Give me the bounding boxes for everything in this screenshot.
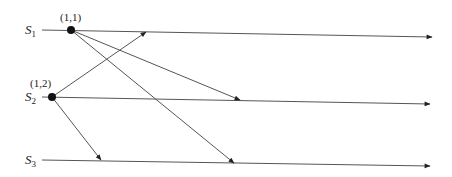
- message-arrows: [52, 30, 240, 163]
- timeline-s3-arrow: [42, 160, 430, 166]
- event-label: (1,2): [30, 77, 51, 90]
- process-label-s3: S3: [25, 152, 37, 169]
- process-label-s1: S1: [25, 22, 36, 39]
- process-label-s2: S2: [25, 89, 36, 106]
- message-arrow: [71, 30, 240, 100]
- space-time-diagram: S1S2S3 (1,1)(1,2): [0, 0, 452, 177]
- event-dot: [67, 26, 75, 34]
- events: (1,1)(1,2): [30, 11, 81, 101]
- event-dot: [48, 93, 56, 101]
- timeline-s1-arrow: [42, 30, 432, 37]
- message-arrow: [52, 97, 101, 160]
- event-label: (1,1): [60, 11, 81, 24]
- message-arrow: [71, 30, 234, 163]
